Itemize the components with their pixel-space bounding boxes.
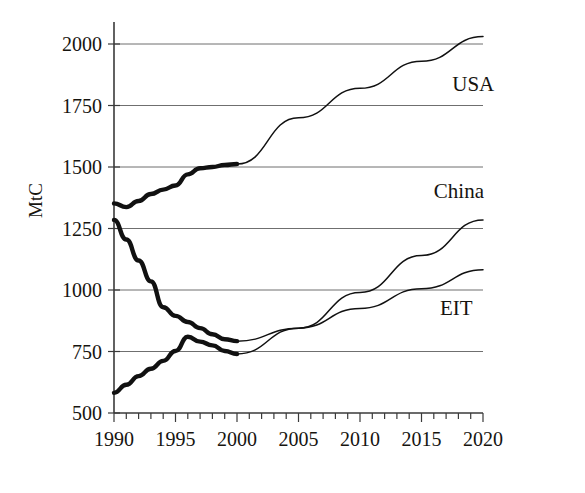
tickmarks-group bbox=[108, 44, 483, 422]
x-tick-label-2015: 2015 bbox=[402, 428, 442, 450]
x-tick-label-2020: 2020 bbox=[463, 428, 503, 450]
y-axis-title-group: MtC bbox=[25, 183, 46, 218]
y-tick-labels-group: 50075010001250150017502000 bbox=[62, 33, 102, 424]
series-label-china: China bbox=[434, 179, 485, 203]
x-tick-label-2000: 2000 bbox=[217, 428, 257, 450]
y-axis-title: MtC bbox=[25, 183, 46, 218]
series-projection-china bbox=[237, 220, 483, 354]
emissions-line-chart: 50075010001250150017502000 1990199520002… bbox=[0, 0, 585, 493]
series-history-usa bbox=[114, 164, 237, 207]
chart-canvas: 50075010001250150017502000 1990199520002… bbox=[0, 0, 585, 493]
y-tick-label-2000: 2000 bbox=[62, 33, 102, 55]
series-history-eit bbox=[114, 220, 237, 341]
x-tick-label-2005: 2005 bbox=[279, 428, 319, 450]
series-paths-group bbox=[114, 37, 483, 393]
y-tick-label-1500: 1500 bbox=[62, 156, 102, 178]
gridlines-group bbox=[114, 44, 483, 352]
y-tick-label-1750: 1750 bbox=[62, 95, 102, 117]
y-tick-label-500: 500 bbox=[72, 402, 102, 424]
y-tick-label-750: 750 bbox=[72, 341, 102, 363]
series-history-china bbox=[114, 337, 237, 393]
series-labels-group: USAChinaEIT bbox=[434, 72, 495, 320]
y-tick-label-1000: 1000 bbox=[62, 279, 102, 301]
series-label-eit: EIT bbox=[440, 296, 473, 320]
x-tick-labels-group: 1990199520002005201020152020 bbox=[94, 428, 503, 450]
x-tick-label-1990: 1990 bbox=[94, 428, 134, 450]
x-tick-label-2010: 2010 bbox=[340, 428, 380, 450]
x-tick-label-1995: 1995 bbox=[156, 428, 196, 450]
y-tick-label-1250: 1250 bbox=[62, 218, 102, 240]
series-projection-usa bbox=[237, 37, 483, 164]
series-label-usa: USA bbox=[452, 72, 495, 96]
